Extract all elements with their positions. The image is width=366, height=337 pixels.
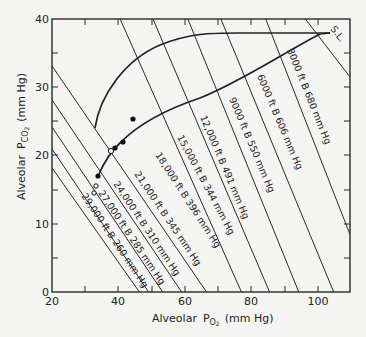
- svg-text:AlveolarPO2(mm Hg): AlveolarPO2(mm Hg): [152, 312, 273, 327]
- po2-pco2-diagram: 20 40 60 80 100 0 10 20 30 40 AlveolarPO…: [0, 0, 366, 337]
- altitude-isopleths: [50, 12, 360, 300]
- isopleth-labels: S.L. 3000 ft B 680 mm Hg 6000 ft B 606 m…: [79, 23, 347, 289]
- point-filled: [120, 139, 125, 144]
- point-open: [92, 191, 96, 195]
- point-open: [108, 148, 113, 153]
- plot-frame: [52, 19, 350, 292]
- isopleth-3000ft: [263, 12, 360, 260]
- svg-text:40: 40: [35, 13, 49, 26]
- point-filled: [95, 173, 100, 178]
- svg-text:40: 40: [111, 295, 125, 308]
- svg-text:30: 30: [35, 81, 49, 94]
- point-filled: [130, 116, 135, 121]
- x-axis-title: AlveolarPO2(mm Hg): [152, 312, 273, 327]
- y-axis-title: AlveolarPCO2(mm Hg): [15, 73, 30, 200]
- svg-text:100: 100: [308, 295, 329, 308]
- svg-text:60: 60: [178, 295, 192, 308]
- svg-text:10: 10: [35, 218, 49, 231]
- svg-text:AlveolarPCO2(mm Hg): AlveolarPCO2(mm Hg): [15, 73, 30, 200]
- isopleth-9000ft: [185, 12, 302, 300]
- label-sea-level: S.L.: [328, 23, 347, 43]
- y-tick-labels: 0 10 20 30 40: [35, 13, 49, 299]
- x-tick-labels: 20 40 60 80 100: [45, 295, 329, 308]
- point-open: [94, 184, 98, 188]
- svg-text:0: 0: [42, 286, 49, 299]
- svg-text:80: 80: [244, 295, 258, 308]
- isopleth-21000ft: [50, 97, 187, 300]
- svg-text:20: 20: [35, 149, 49, 162]
